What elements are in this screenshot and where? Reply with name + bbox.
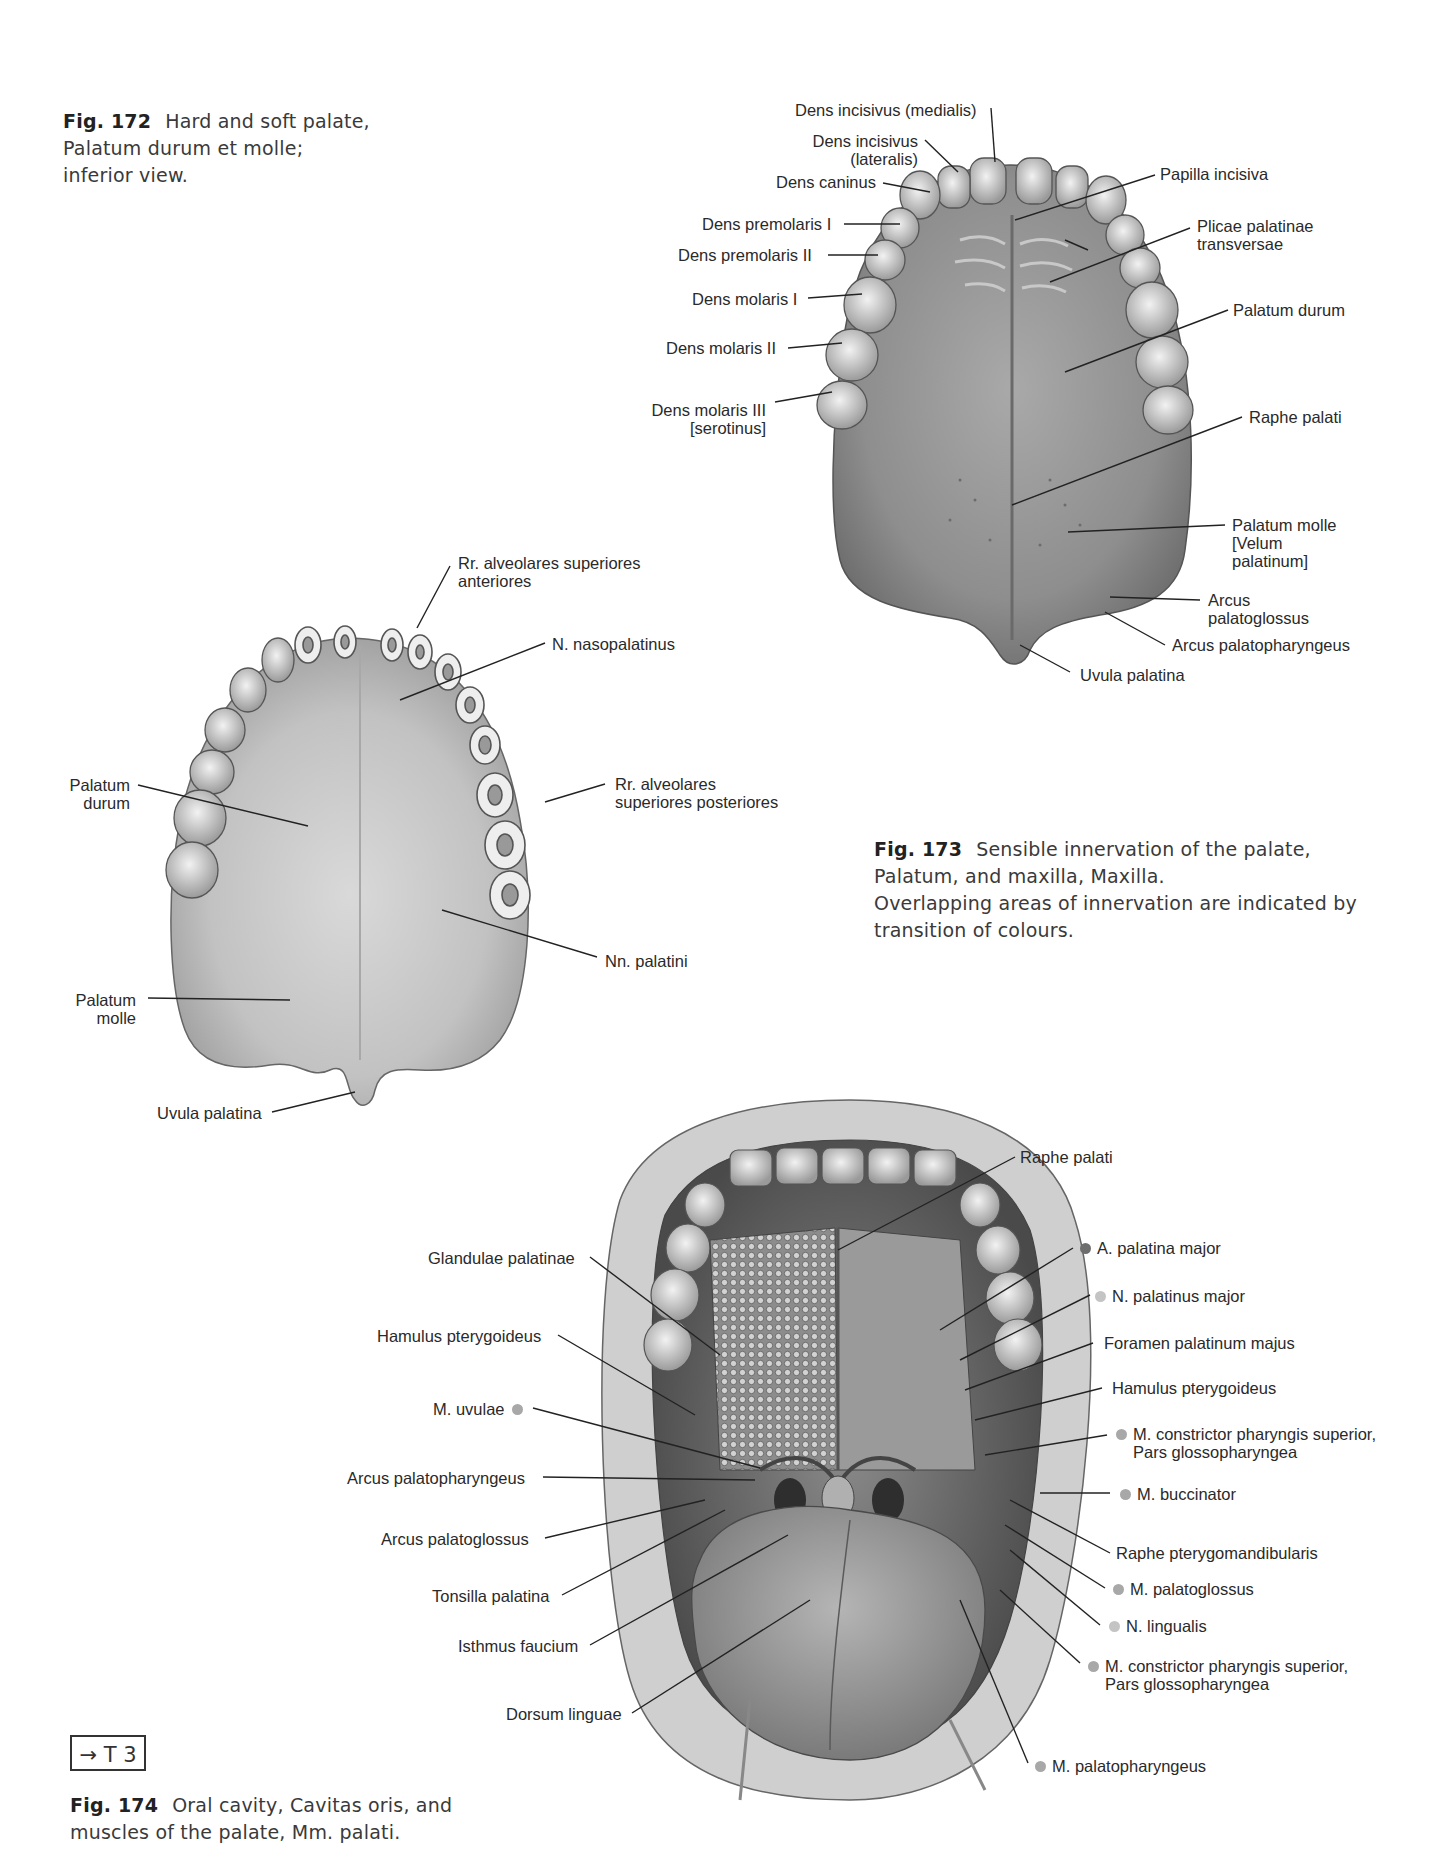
muscle-dot-icon <box>1113 1584 1124 1595</box>
label-text: N. palatinus major <box>1112 1287 1245 1305</box>
nerve-dot-icon <box>1095 1291 1106 1302</box>
label-dens-molaris-3: Dens molaris III [serotinus] <box>620 401 766 437</box>
label-dens-premolaris-1: Dens premolaris I <box>702 215 831 233</box>
label-line: [serotinus] <box>620 419 766 437</box>
label-glandulae-palatinae: Glandulae palatinae <box>428 1249 575 1267</box>
label-line: [Velum <box>1232 534 1337 552</box>
fig172-caption-line: inferior view. <box>63 162 370 189</box>
label-raphe-pterygomandibularis: Raphe pterygomandibularis <box>1116 1544 1318 1562</box>
label-line: (lateralis) <box>800 150 918 168</box>
fig173-number: Fig. 173 <box>874 838 962 860</box>
label-arcus-palatopharyngeus: Arcus palatopharyngeus <box>347 1469 525 1487</box>
label-raphe-palati: Raphe palati <box>1020 1148 1113 1166</box>
label-line: palatinum] <box>1232 552 1337 570</box>
fig172-palate-drawing <box>817 158 1193 664</box>
muscle-dot-icon <box>1088 1661 1099 1672</box>
label-text: M. buccinator <box>1137 1485 1236 1503</box>
label-dorsum-linguae: Dorsum linguae <box>506 1705 622 1723</box>
label-line: anteriores <box>458 572 641 590</box>
label-hamulus-pterygoideus: Hamulus pterygoideus <box>377 1327 541 1345</box>
label-palatum-durum: Palatum durum <box>55 776 130 812</box>
label-raphe-palati: Raphe palati <box>1249 408 1342 426</box>
label-text: Pars glossopharyngea <box>1088 1675 1348 1693</box>
label-line: durum <box>55 794 130 812</box>
label-dens-caninus: Dens caninus <box>776 173 876 191</box>
label-dens-incisivus-medialis: Dens incisivus (medialis) <box>795 101 977 119</box>
label-uvula-palatina: Uvula palatina <box>157 1104 262 1122</box>
fig173-caption-line: Palatum, and maxilla, Maxilla. <box>874 863 1357 890</box>
label-palatum-molle: Palatum molle [Velum palatinum] <box>1232 516 1337 570</box>
label-text: M. constrictor pharyngis superior, <box>1105 1657 1348 1675</box>
label-arcus-palatoglossus: Arcus palatoglossus <box>381 1530 529 1548</box>
label-uvula-palatina: Uvula palatina <box>1080 666 1185 684</box>
label-n-nasopalatinus: N. nasopalatinus <box>552 635 675 653</box>
label-isthmus-faucium: Isthmus faucium <box>458 1637 578 1655</box>
label-foramen-palatinum-majus: Foramen palatinum majus <box>1104 1334 1295 1352</box>
fig174-number: Fig. 174 <box>70 1794 158 1816</box>
artery-dot-icon <box>1080 1243 1091 1254</box>
label-arcus-palatoglossus: Arcus palatoglossus <box>1208 591 1309 627</box>
label-line: transversae <box>1197 235 1314 253</box>
fig173-caption-line: Sensible innervation of the palate, <box>976 838 1311 860</box>
muscle-dot-icon <box>1035 1761 1046 1772</box>
label-palatum-durum: Palatum durum <box>1233 301 1345 319</box>
label-text: Pars glossopharyngea <box>1116 1443 1376 1461</box>
muscle-dot-icon <box>1120 1489 1131 1500</box>
label-line: Plicae palatinae <box>1197 217 1314 235</box>
label-nn-palatini: Nn. palatini <box>605 952 688 970</box>
fig173-palate-drawing <box>166 626 530 1105</box>
muscle-dot-icon <box>512 1404 523 1415</box>
label-dens-molaris-2: Dens molaris II <box>666 339 776 357</box>
label-palatum-molle: Palatum molle <box>60 991 136 1027</box>
label-line: Palatum <box>60 991 136 1009</box>
label-line: Arcus <box>1208 591 1309 609</box>
label-line: superiores posteriores <box>615 793 778 811</box>
label-line: Rr. alveolares superiores <box>458 554 641 572</box>
label-arcus-palatopharyngeus: Arcus palatopharyngeus <box>1172 636 1350 654</box>
label-line: palatoglossus <box>1208 609 1309 627</box>
label-dens-molaris-1: Dens molaris I <box>692 290 797 308</box>
label-n-lingualis: N. lingualis <box>1109 1617 1207 1635</box>
label-dens-premolaris-2: Dens premolaris II <box>678 246 812 264</box>
label-text: M. palatopharyngeus <box>1052 1757 1206 1775</box>
fig174-caption-line: Oral cavity, Cavitas oris, and <box>172 1794 452 1816</box>
label-line: Palatum molle <box>1232 516 1337 534</box>
label-text: A. palatina major <box>1097 1239 1221 1257</box>
label-papilla-incisiva: Papilla incisiva <box>1160 165 1268 183</box>
label-m-buccinator: M. buccinator <box>1120 1485 1236 1503</box>
label-m-constrictor-pharyngis-2: M. constrictor pharyngis superior, Pars … <box>1088 1657 1348 1693</box>
fig174-caption: Fig. 174Oral cavity, Cavitas oris, and m… <box>70 1792 452 1846</box>
nerve-dot-icon <box>1109 1621 1120 1632</box>
label-text: M. uvulae <box>433 1400 505 1418</box>
label-n-palatinus-major: N. palatinus major <box>1095 1287 1245 1305</box>
label-text: M. palatoglossus <box>1130 1580 1254 1598</box>
label-m-uvulae: M. uvulae <box>433 1400 523 1418</box>
label-line: molle <box>60 1009 136 1027</box>
muscle-dot-icon <box>1116 1429 1127 1440</box>
label-a-palatina-major: A. palatina major <box>1080 1239 1221 1257</box>
label-m-constrictor-pharyngis-1: M. constrictor pharyngis superior, Pars … <box>1116 1425 1376 1461</box>
fig173-caption-line: transition of colours. <box>874 917 1357 944</box>
label-text: N. lingualis <box>1126 1617 1207 1635</box>
label-line: Rr. alveolares <box>615 775 778 793</box>
fig172-caption: Fig. 172Hard and soft palate, Palatum du… <box>63 108 370 189</box>
fig172-number: Fig. 172 <box>63 110 151 132</box>
label-tonsilla-palatina: Tonsilla palatina <box>432 1587 549 1605</box>
label-m-palatopharyngeus: M. palatopharyngeus <box>1035 1757 1206 1775</box>
label-dens-incisivus-lateralis: Dens incisivus (lateralis) <box>800 132 918 168</box>
label-line: Dens molaris III <box>620 401 766 419</box>
fig172-caption-line: Palatum durum et molle; <box>63 135 370 162</box>
cross-reference-box[interactable]: → T 3 <box>70 1735 146 1771</box>
label-m-palatoglossus: M. palatoglossus <box>1113 1580 1254 1598</box>
label-text: M. constrictor pharyngis superior, <box>1133 1425 1376 1443</box>
fig172-caption-line: Hard and soft palate, <box>165 110 370 132</box>
fig173-caption: Fig. 173Sensible innervation of the pala… <box>874 836 1357 944</box>
label-line: Dens incisivus <box>800 132 918 150</box>
label-rr-alveolares-anteriores: Rr. alveolares superiores anteriores <box>458 554 641 590</box>
label-plicae-palatinae: Plicae palatinae transversae <box>1197 217 1314 253</box>
label-line: Palatum <box>55 776 130 794</box>
label-hamulus-pterygoideus: Hamulus pterygoideus <box>1112 1379 1276 1397</box>
label-rr-alveolares-posteriores: Rr. alveolares superiores posteriores <box>615 775 778 811</box>
fig174-caption-line: muscles of the palate, Mm. palati. <box>70 1819 452 1846</box>
fig173-caption-line: Overlapping areas of innervation are ind… <box>874 890 1357 917</box>
